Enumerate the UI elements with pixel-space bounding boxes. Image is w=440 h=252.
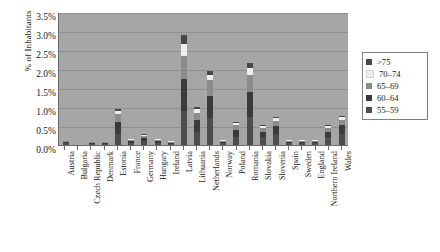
bar[interactable] bbox=[273, 117, 279, 145]
bar-segment bbox=[194, 113, 200, 121]
bar[interactable] bbox=[194, 107, 200, 145]
x-tick-mark bbox=[236, 146, 237, 150]
bar-slot bbox=[269, 13, 282, 145]
x-axis-tick-marks bbox=[58, 146, 348, 150]
legend-label: 70–74 bbox=[379, 70, 400, 79]
x-label-slot: Ireland bbox=[164, 151, 177, 249]
x-tick-slot bbox=[164, 146, 177, 150]
x-tick-slot bbox=[137, 146, 150, 150]
bar[interactable] bbox=[286, 140, 292, 145]
x-tick-mark bbox=[143, 146, 144, 150]
x-label-slot: Romania bbox=[243, 151, 256, 249]
x-label-slot: Germany bbox=[137, 151, 150, 249]
y-axis-tick-labels: 3.5%3.0%2.5%2.0%1.5%1.0%0.5%0.0% bbox=[22, 7, 56, 153]
bar-segment bbox=[339, 134, 345, 145]
bar-segment bbox=[286, 143, 292, 145]
bar-segment bbox=[339, 125, 345, 134]
x-tick-mark bbox=[156, 146, 157, 150]
bar-segment bbox=[181, 44, 187, 55]
legend-item[interactable]: 60–64 bbox=[366, 92, 423, 104]
plot-area bbox=[58, 13, 348, 146]
x-label-slot: Poland bbox=[229, 151, 242, 249]
bar-segment bbox=[233, 137, 239, 145]
x-tick-mark bbox=[328, 146, 329, 150]
x-tick-mark bbox=[222, 146, 223, 150]
legend-swatch-icon bbox=[366, 95, 372, 101]
bar-slot bbox=[98, 13, 111, 145]
legend-label: 65–69 bbox=[377, 82, 398, 91]
x-label-slot: Slovakia bbox=[256, 151, 269, 249]
legend-item[interactable]: 70–74 bbox=[366, 68, 423, 80]
bar[interactable] bbox=[89, 142, 95, 145]
x-label-slot: Northern Ireland bbox=[322, 151, 335, 249]
bar-segment bbox=[220, 143, 226, 145]
bar-segment bbox=[299, 143, 305, 145]
bar-segment bbox=[141, 141, 147, 145]
legend-swatch-icon bbox=[366, 83, 372, 89]
x-tick-slot bbox=[322, 146, 335, 150]
bar[interactable] bbox=[102, 142, 108, 145]
bar[interactable] bbox=[220, 140, 226, 145]
bar-slot bbox=[151, 13, 164, 145]
x-tick-mark bbox=[288, 146, 289, 150]
legend-item[interactable]: 65–69 bbox=[366, 80, 423, 92]
bar-slot bbox=[256, 13, 269, 145]
x-tick-mark bbox=[249, 146, 250, 150]
bar-slot bbox=[190, 13, 203, 145]
x-tick-slot bbox=[71, 146, 84, 150]
x-tick-slot bbox=[111, 146, 124, 150]
x-tick-slot bbox=[190, 146, 203, 150]
bar-segment bbox=[63, 143, 69, 145]
bar-segment bbox=[325, 137, 331, 145]
bar-segment bbox=[247, 92, 253, 117]
x-tick-mark bbox=[196, 146, 197, 150]
bar[interactable] bbox=[207, 71, 213, 145]
x-tick-mark bbox=[209, 146, 210, 150]
bar[interactable] bbox=[63, 141, 69, 145]
bar-segment bbox=[273, 126, 279, 134]
bar-segment bbox=[247, 117, 253, 146]
x-label-slot: Czech Republic bbox=[84, 151, 97, 249]
x-tick-slot bbox=[216, 146, 229, 150]
x-tick-mark bbox=[130, 146, 131, 150]
x-tick-slot bbox=[309, 146, 322, 150]
legend-label: >75 bbox=[377, 58, 390, 67]
bar[interactable] bbox=[128, 139, 134, 145]
bar[interactable] bbox=[233, 122, 239, 145]
x-tick-mark bbox=[341, 146, 342, 150]
x-label-slot: Wales bbox=[335, 151, 348, 249]
x-label-slot: Spain bbox=[282, 151, 295, 249]
x-label-slot: Slovenia bbox=[269, 151, 282, 249]
bar-segment bbox=[260, 137, 266, 145]
bar[interactable] bbox=[260, 125, 266, 145]
legend-swatch-icon bbox=[366, 59, 372, 65]
x-tick-mark bbox=[104, 146, 105, 150]
bar-segment bbox=[155, 143, 161, 145]
bar-slot bbox=[125, 13, 138, 145]
bar[interactable] bbox=[339, 116, 345, 145]
x-label-slot: Sweden bbox=[295, 151, 308, 249]
bar-slot bbox=[243, 13, 256, 145]
bar[interactable] bbox=[181, 35, 187, 145]
legend-item[interactable]: 55–59 bbox=[366, 104, 423, 116]
y-tick-label: 3.5% bbox=[36, 13, 56, 22]
x-tick-mark bbox=[183, 146, 184, 150]
bar-segment bbox=[194, 120, 200, 131]
bar[interactable] bbox=[312, 140, 318, 145]
bar[interactable] bbox=[155, 139, 161, 145]
x-tick-slot bbox=[84, 146, 97, 150]
bar-segment bbox=[115, 114, 121, 122]
x-axis-label: Wales bbox=[345, 151, 353, 171]
bar-slot bbox=[164, 13, 177, 145]
bar[interactable] bbox=[168, 141, 174, 145]
bar[interactable] bbox=[141, 134, 147, 145]
legend-item[interactable]: >75 bbox=[366, 56, 423, 68]
bar[interactable] bbox=[325, 125, 331, 145]
x-label-slot: France bbox=[124, 151, 137, 249]
bar-chart: % of Inhabitants 3.5%3.0%2.5%2.0%1.5%1.0… bbox=[0, 0, 440, 252]
bar[interactable] bbox=[247, 63, 253, 145]
bar-segment bbox=[247, 68, 253, 75]
bar[interactable] bbox=[115, 109, 121, 145]
bar-segment bbox=[233, 130, 239, 137]
bar[interactable] bbox=[299, 140, 305, 145]
